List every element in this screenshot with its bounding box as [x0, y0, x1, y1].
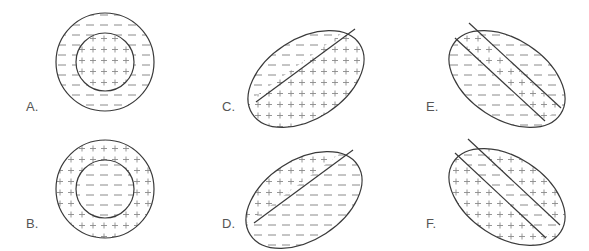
- label-e: E.: [426, 99, 438, 114]
- figure-e: [430, 11, 589, 148]
- figure-d: [229, 132, 390, 251]
- label-f: F.: [426, 216, 436, 231]
- figure-f: [430, 129, 589, 251]
- figure-a: [56, 13, 154, 111]
- label-b: B.: [26, 216, 38, 231]
- figure-c: [230, 11, 390, 148]
- label-a: A.: [26, 99, 38, 114]
- figure-b: [56, 140, 154, 238]
- label-c: C.: [222, 99, 235, 114]
- label-d: D.: [222, 216, 235, 231]
- charge-distribution-diagram: [0, 0, 589, 251]
